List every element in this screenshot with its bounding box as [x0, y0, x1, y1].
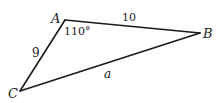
vertex-label-a: A — [50, 11, 60, 26]
side-label-ac: 9 — [32, 46, 40, 60]
side-ac — [20, 20, 65, 91]
vertex-label-b: B — [202, 26, 213, 41]
side-label-ab: 10 — [122, 11, 136, 24]
vertex-label-c: C — [8, 86, 18, 101]
angle-label-a: 110° — [64, 25, 91, 38]
side-bc — [20, 33, 200, 91]
side-label-bc: a — [104, 67, 111, 81]
triangle-diagram: A B C 110° 10 9 a — [0, 0, 220, 103]
